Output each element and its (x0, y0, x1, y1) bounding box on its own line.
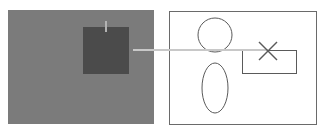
dark-square-region (83, 27, 129, 74)
diagram-svg (0, 0, 326, 137)
left-image-panel (8, 10, 154, 124)
diagram-canvas (0, 0, 326, 137)
